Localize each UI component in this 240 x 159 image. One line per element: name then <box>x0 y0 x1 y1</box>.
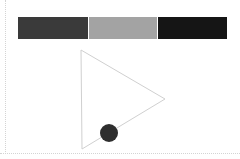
shape-canvas <box>0 0 240 159</box>
triangle-outline <box>81 50 165 149</box>
dark-circle <box>100 124 118 142</box>
